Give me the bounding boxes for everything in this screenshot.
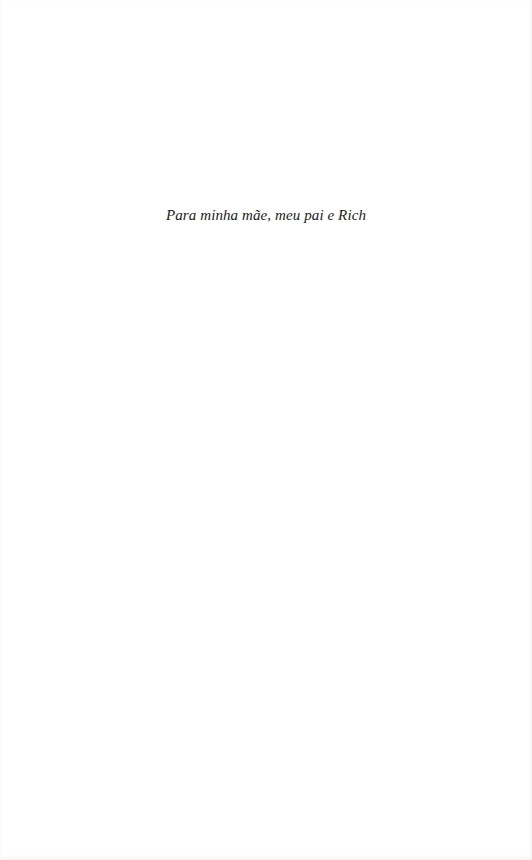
dedication-text: Para minha mãe, meu pai e Rich [0, 207, 532, 224]
book-page: Para minha mãe, meu pai e Rich [0, 0, 532, 860]
